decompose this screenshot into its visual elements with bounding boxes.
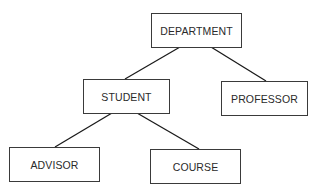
edge-department-professor [211,47,266,81]
edge-student-advisor [55,113,112,147]
node-label: ADVISOR [31,159,79,171]
node-department: DEPARTMENT [151,13,242,48]
node-label: COURSE [173,161,219,173]
node-course: COURSE [150,149,241,184]
edge-department-student [125,47,180,79]
node-professor: PROFESSOR [221,81,308,116]
edge-student-course [137,113,199,149]
node-student: STUDENT [83,79,170,114]
node-advisor: ADVISOR [9,147,100,182]
node-label: DEPARTMENT [160,25,232,37]
node-label: STUDENT [101,91,151,103]
node-label: PROFESSOR [231,93,298,105]
